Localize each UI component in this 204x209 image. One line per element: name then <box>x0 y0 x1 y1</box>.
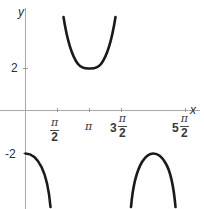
coefficient-5: 5 <box>172 122 179 134</box>
pi-numerator: π <box>180 113 189 127</box>
graph-figure: y x 2 -2 π 2 π 3 π 2 5 π <box>0 0 204 209</box>
pi-numerator: π <box>118 113 127 127</box>
curve-branch-right-down <box>131 154 176 208</box>
pi-numerator: π <box>50 117 59 131</box>
x-tick-label-5pi-over-2: 5 π 2 <box>172 114 189 141</box>
pi-denominator: 2 <box>180 127 189 141</box>
pi-symbol: π <box>85 120 92 133</box>
x-tick-label-3pi-over-2: 3 π 2 <box>110 114 127 141</box>
x-tick-label-pi-over-2: π 2 <box>50 114 59 145</box>
x-tick-label-pi: π <box>85 117 92 133</box>
y-axis-label: y <box>18 6 24 18</box>
y-tick-label-neg-2: -2 <box>5 148 16 160</box>
x-axis-label: x <box>190 104 196 116</box>
y-tick-label-2: 2 <box>11 62 18 74</box>
curve-branch-middle-up <box>64 17 116 69</box>
coefficient-3: 3 <box>110 122 117 134</box>
pi-denominator: 2 <box>50 131 59 145</box>
pi-denominator: 2 <box>118 127 127 141</box>
curve-branch-left-down <box>26 154 51 208</box>
plot-canvas <box>0 0 204 209</box>
